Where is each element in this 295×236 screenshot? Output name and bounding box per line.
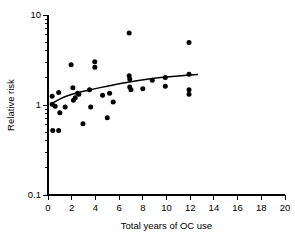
data-point bbox=[187, 72, 192, 77]
data-point bbox=[187, 92, 192, 97]
data-point bbox=[80, 121, 85, 126]
data-points-group bbox=[50, 31, 192, 134]
y-axis-tick-labels: 0.1110 bbox=[28, 9, 41, 200]
x-axis-title: Total years of OC use bbox=[121, 220, 212, 231]
x-tick-label: 6 bbox=[116, 202, 121, 213]
data-point bbox=[56, 128, 61, 133]
data-point bbox=[100, 93, 105, 98]
x-tick-label: 18 bbox=[256, 202, 267, 213]
data-point bbox=[128, 87, 133, 92]
x-tick-label: 10 bbox=[161, 202, 172, 213]
x-tick-label: 0 bbox=[45, 202, 50, 213]
chart-plot-area: 0.1110 02468101214161820 Total years of … bbox=[0, 0, 295, 236]
data-point bbox=[140, 86, 145, 91]
data-point bbox=[53, 104, 58, 109]
data-point bbox=[127, 76, 132, 81]
data-point bbox=[127, 31, 132, 36]
x-axis-major-ticks bbox=[48, 195, 285, 200]
x-tick-label: 8 bbox=[140, 202, 145, 213]
data-point bbox=[76, 92, 81, 97]
data-point bbox=[56, 90, 61, 95]
y-tick-label: 10 bbox=[30, 9, 41, 20]
data-point bbox=[163, 84, 168, 89]
data-point bbox=[107, 91, 112, 96]
data-point bbox=[50, 94, 55, 99]
data-point bbox=[87, 87, 92, 92]
data-point bbox=[111, 99, 116, 104]
y-axis-title: Relative risk bbox=[5, 79, 16, 131]
x-tick-label: 16 bbox=[232, 202, 243, 213]
data-point bbox=[187, 87, 192, 92]
data-point bbox=[57, 110, 62, 115]
data-point bbox=[187, 40, 192, 45]
x-tick-label: 14 bbox=[209, 202, 220, 213]
data-point bbox=[150, 78, 155, 83]
data-point bbox=[163, 75, 168, 80]
data-point bbox=[70, 85, 75, 90]
data-point bbox=[92, 59, 97, 64]
data-point bbox=[105, 115, 110, 120]
x-tick-label: 2 bbox=[69, 202, 74, 213]
x-tick-label: 4 bbox=[93, 202, 98, 213]
relative-risk-scatter-chart: 0.1110 02468101214161820 Total years of … bbox=[0, 0, 295, 236]
data-point bbox=[63, 105, 68, 110]
data-point bbox=[50, 128, 55, 133]
data-point bbox=[73, 95, 78, 100]
x-tick-label: 12 bbox=[185, 202, 196, 213]
data-point bbox=[69, 62, 74, 67]
x-tick-label: 20 bbox=[280, 202, 291, 213]
x-axis-tick-labels: 02468101214161820 bbox=[45, 202, 290, 213]
data-point bbox=[92, 65, 97, 70]
y-tick-label: 0.1 bbox=[28, 189, 41, 200]
y-tick-label: 1 bbox=[36, 99, 41, 110]
data-point bbox=[88, 105, 93, 110]
